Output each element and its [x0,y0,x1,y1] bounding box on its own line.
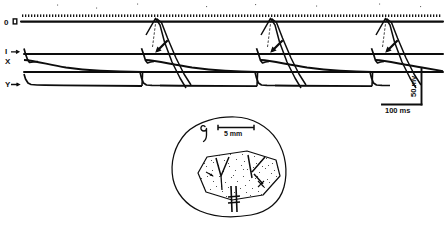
trace-Y-group: Y [5,72,390,89]
neuron-mark-v [216,157,229,176]
trace-Y-onset-0 [24,74,45,85]
neuron-mark-v-axon [221,176,222,190]
arrow-2 [270,41,282,53]
trace-Y-plateau-2 [275,86,372,87]
neuron-mark-k [248,155,265,184]
trace-Y-plateau-1 [160,86,257,87]
trace-X-decay-0 [24,60,142,72]
trace-X-decay-2 [261,60,372,72]
trace-Y-riser-1 [142,72,143,86]
arrow-1 [155,41,167,53]
trace-X-decay-3 [376,60,443,71]
tract-lines [231,186,237,212]
trace-0-origin-marker-inner [14,20,16,24]
figure-root: I X Y [0,0,446,226]
trace-X-decay-1 [146,60,257,72]
inset-scale-label: 5 mm [224,130,242,137]
ganglion-inset: 5 mm [172,117,286,217]
event-arrows [155,41,397,53]
neuron-hook-icon [201,126,207,142]
trace-0-group [13,4,444,89]
scale-bars: 50 mv 100 ms [382,69,422,115]
voltage-scale-label: 50 mv [409,75,418,97]
trace-Y-riser-3 [372,72,373,86]
trace-label-I-pointer [11,50,19,53]
inset-scale-bar-group: 5 mm [218,125,254,137]
time-marker-dots [22,14,440,17]
time-scale-label: 100 ms [385,106,410,115]
inset-pointer-1-head [210,173,214,176]
trace-Y-riser-2 [257,72,258,86]
trace-label-X: X [5,57,11,66]
upper-speckle [57,4,421,9]
arrow-3 [385,41,397,53]
trace-label-I: I [5,47,7,56]
trace-label-0: 0 [4,18,9,27]
trace-label-Y-pointer [11,83,19,86]
trace-label-Y: Y [5,80,11,89]
trace-Y-plateau-0 [45,85,142,86]
figure-canvas: I X Y [0,0,446,226]
trace-X-group: X [5,57,443,72]
